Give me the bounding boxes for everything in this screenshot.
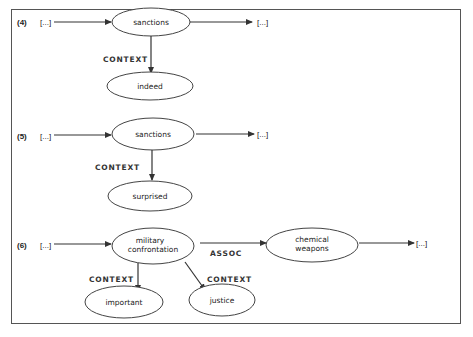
node-label-line1: chemical xyxy=(295,235,329,244)
node-label: surprised xyxy=(133,192,168,201)
node-label: justice xyxy=(209,296,235,305)
edge-label-context: CONTEXT xyxy=(89,275,134,284)
node-label: important xyxy=(105,298,142,307)
example-4: (4) [...] sanctions [...] CONTEXT indeed xyxy=(17,8,268,100)
output-ellipsis: [...] xyxy=(416,239,427,248)
input-ellipsis: [...] xyxy=(40,18,51,27)
node-label-line2: weapons xyxy=(295,244,328,253)
output-ellipsis: [...] xyxy=(257,18,268,27)
example-6: (6) [...] military confrontation ASSOC c… xyxy=(17,228,427,318)
node-label: sanctions xyxy=(133,18,169,27)
node-label: indeed xyxy=(137,82,163,91)
edge-label-context: CONTEXT xyxy=(103,55,148,64)
edge-label-context: CONTEXT xyxy=(207,275,252,284)
example-number: (6) xyxy=(17,241,27,250)
input-ellipsis: [...] xyxy=(40,132,51,141)
input-ellipsis: [...] xyxy=(40,241,51,250)
node-label: sanctions xyxy=(135,130,171,139)
diagram-canvas: (4) [...] sanctions [...] CONTEXT indeed… xyxy=(0,0,473,337)
edge-label-assoc: ASSOC xyxy=(210,249,242,258)
edge-label-context: CONTEXT xyxy=(95,163,140,172)
example-number: (5) xyxy=(17,132,27,141)
node-label-line1: military xyxy=(136,236,165,245)
node-label-line2: confrontation xyxy=(128,245,179,254)
example-5: (5) [...] sanctions [...] CONTEXT surpri… xyxy=(17,118,268,211)
context-arrow-justice xyxy=(185,262,205,290)
example-number: (4) xyxy=(17,18,27,27)
output-ellipsis: [...] xyxy=(257,130,268,139)
